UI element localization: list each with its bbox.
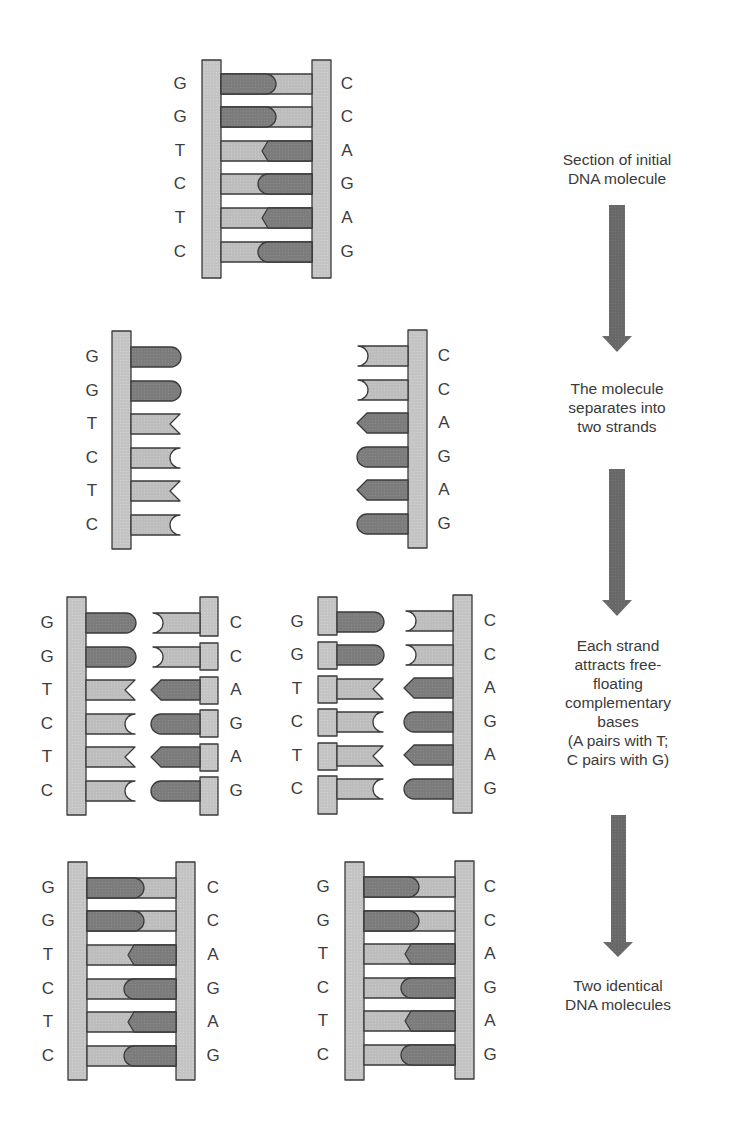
caption-line: bases <box>523 712 713 731</box>
base-label: T <box>37 747 57 767</box>
base-label: C <box>287 712 307 732</box>
base-label: T <box>313 944 333 964</box>
base-label: C <box>480 911 500 931</box>
down-arrow-icon <box>603 815 633 957</box>
base-label: G <box>226 781 246 801</box>
caption-line: Two identical <box>523 976 713 995</box>
initial-dna-molecule <box>202 60 331 278</box>
base-label: A <box>226 680 246 700</box>
caption-line: attracts free- <box>523 655 713 674</box>
final-dna-molecule-right <box>345 861 474 1080</box>
attracting-left-group <box>67 597 218 815</box>
base-label: A <box>203 945 223 965</box>
base-label: C <box>170 174 190 194</box>
caption-step-4: Two identical DNA molecules <box>523 976 713 1014</box>
base-label: A <box>203 1012 223 1032</box>
base-label: C <box>203 878 223 898</box>
base-label: G <box>480 1045 500 1065</box>
base-label: A <box>226 747 246 767</box>
base-label: C <box>287 779 307 799</box>
caption-line: DNA molecule <box>522 169 712 188</box>
base-label: T <box>170 208 190 228</box>
base-label: T <box>287 746 307 766</box>
final-dna-molecule-left <box>68 862 195 1080</box>
base-label: G <box>38 878 58 898</box>
base-label: C <box>82 515 102 535</box>
base-label: C <box>226 613 246 633</box>
caption-line: separates into <box>522 398 712 417</box>
base-label: C <box>82 448 102 468</box>
base-label: G <box>480 779 500 799</box>
base-label: C <box>337 107 357 127</box>
base-label: C <box>434 346 454 366</box>
base-label: C <box>38 1046 58 1066</box>
base-label: T <box>38 945 58 965</box>
base-label: G <box>287 645 307 665</box>
base-label: C <box>434 380 454 400</box>
base-label: C <box>480 877 500 897</box>
base-label: C <box>226 647 246 667</box>
base-label: C <box>37 781 57 801</box>
down-arrow-icon <box>602 469 632 616</box>
down-arrow-icon <box>602 205 632 352</box>
base-label: G <box>337 174 357 194</box>
base-label: G <box>480 712 500 732</box>
base-label: C <box>170 242 190 262</box>
base-label: C <box>313 1045 333 1065</box>
base-label: G <box>313 877 333 897</box>
caption-step-3: Each strand attracts free- floating comp… <box>523 636 713 769</box>
base-label: G <box>170 74 190 94</box>
base-label: G <box>82 381 102 401</box>
base-label: C <box>37 714 57 734</box>
caption-line: complementary <box>523 693 713 712</box>
base-label: G <box>287 612 307 632</box>
base-label: G <box>37 647 57 667</box>
base-label: G <box>226 714 246 734</box>
base-label: G <box>434 447 454 467</box>
base-label: A <box>480 944 500 964</box>
caption-step-1: Section of initial DNA molecule <box>522 150 712 188</box>
caption-line: floating <box>523 674 713 693</box>
base-label: G <box>313 911 333 931</box>
base-label: G <box>337 242 357 262</box>
base-label: G <box>38 911 58 931</box>
separated-left-strand <box>112 331 181 549</box>
caption-line: two strands <box>522 417 712 436</box>
base-label: G <box>170 107 190 127</box>
base-label: C <box>480 645 500 665</box>
caption-step-2: The molecule separates into two strands <box>522 379 712 436</box>
base-label: T <box>38 1012 58 1032</box>
caption-line: (A pairs with T; <box>523 731 713 750</box>
base-label: C <box>38 979 58 999</box>
separated-right-strand <box>357 330 427 548</box>
base-label: G <box>480 978 500 998</box>
base-label: A <box>480 1011 500 1031</box>
base-label: T <box>287 679 307 699</box>
base-label: T <box>37 680 57 700</box>
base-label: G <box>37 613 57 633</box>
base-label: A <box>337 208 357 228</box>
base-label: T <box>313 1011 333 1031</box>
base-label: A <box>434 480 454 500</box>
attracting-right-group <box>318 595 472 814</box>
base-label: A <box>337 141 357 161</box>
base-label: G <box>434 514 454 534</box>
base-label: A <box>480 745 500 765</box>
base-label: C <box>337 74 357 94</box>
base-label: C <box>203 911 223 931</box>
base-label: G <box>203 979 223 999</box>
caption-line: C pairs with G) <box>523 750 713 769</box>
base-label: A <box>480 678 500 698</box>
caption-line: DNA molecules <box>523 995 713 1014</box>
base-label: A <box>434 413 454 433</box>
base-label: C <box>480 611 500 631</box>
base-label: T <box>82 481 102 501</box>
base-label: C <box>313 978 333 998</box>
caption-line: Each strand <box>523 636 713 655</box>
base-label: G <box>82 347 102 367</box>
base-label: T <box>82 414 102 434</box>
caption-line: Section of initial <box>522 150 712 169</box>
base-label: T <box>170 141 190 161</box>
base-label: G <box>203 1046 223 1066</box>
caption-line: The molecule <box>522 379 712 398</box>
